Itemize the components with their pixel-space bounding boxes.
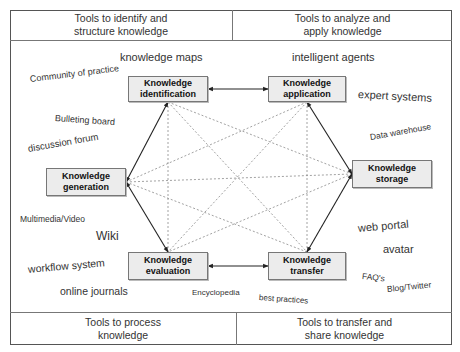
node-label: Knowledge [140, 78, 196, 89]
node-knowledge-storage: Knowledgestorage [352, 160, 432, 188]
node-label: Knowledge [283, 255, 331, 266]
node-label: evaluation [144, 266, 192, 277]
dashed-links [126, 102, 352, 252]
node-label: identification [140, 89, 196, 100]
node-knowledge-generation: Knowledgegeneration [46, 168, 126, 196]
node-label: Knowledge [283, 78, 331, 89]
node-knowledge-transfer: Knowledgetransfer [268, 252, 346, 280]
tool-intelligent-agents: intelligent agents [292, 51, 375, 63]
tool-online-journals: online journals [60, 285, 128, 297]
solid-arrows [126, 89, 352, 266]
node-label: Knowledge [144, 255, 192, 266]
tool-encyclopedia: Encyclopedia [192, 288, 240, 297]
tool-avatar: avatar [383, 243, 414, 255]
tool-multimedia-video: Multimedia/Video [20, 214, 85, 224]
node-label: Knowledge [62, 171, 110, 182]
node-knowledge-identification: Knowledgeidentification [128, 76, 208, 102]
node-knowledge-evaluation: Knowledgeevaluation [128, 252, 208, 280]
tool-knowledge-maps: knowledge maps [120, 51, 203, 63]
node-label: generation [62, 182, 110, 193]
tool-wiki: Wiki [96, 229, 119, 243]
node-label: transfer [283, 266, 331, 277]
node-knowledge-application: Knowledgeapplication [268, 76, 346, 102]
node-label: Knowledge [368, 163, 416, 174]
node-label: application [283, 89, 331, 100]
node-label: storage [368, 174, 416, 185]
